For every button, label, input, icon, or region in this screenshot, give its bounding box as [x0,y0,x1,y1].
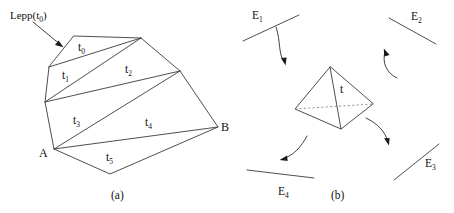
triangle-label-t3: t3 [73,115,80,127]
e2-arrow-head [384,49,390,57]
polygon-outline [45,36,218,174]
edge-label-e4-name: E [278,185,285,197]
lepp-label-suffix: ) [43,9,47,21]
triangle-label-t5: t5 [106,152,113,164]
edge-label-e3-name: E [425,157,432,169]
tetra-edge-apex-bottom [330,67,341,129]
lepp-label-prefix: Lepp(t [10,9,39,21]
triangle-label-t1-sub: 1 [65,75,69,84]
triangle-label-t4: t4 [145,117,152,129]
triangle-label-t0: t0 [78,42,85,54]
edge-label-e1: E1 [252,10,263,22]
tetra-outline [295,67,373,129]
e3-arrow-head [384,138,390,146]
figure-svg [0,0,454,213]
triangle-label-t0-sub: 0 [81,47,85,56]
figure-root: Lepp(t0) t0 t1 t2 t3 t4 t5 A B t E1 E2 E… [0,0,454,213]
edge-label-e3-sub: 3 [432,163,436,172]
lepp-label: Lepp(t0) [10,10,47,21]
edge-sketch-e2 [384,18,436,78]
edge-label-e4: E4 [278,186,289,198]
edge-label-e2: E2 [411,11,422,23]
vertex-label-a: A [39,147,48,159]
caption-b: (b) [331,190,344,202]
triangle-label-t5-sub: 5 [109,157,113,166]
triangle-label-t1: t1 [62,70,69,82]
panel-a-polygon [45,36,218,174]
e4-arrow-head [280,156,288,161]
edge-label-e4-sub: 4 [285,191,289,200]
tetra-hidden-edge [295,104,373,109]
e1-arrow-shaft [276,27,284,62]
lepp-label-sub: 0 [39,15,43,24]
vertex-label-b: B [221,121,229,133]
edge-sketch-e4 [247,136,314,178]
lepp-arrow-shaft [33,22,61,45]
edge-label-e3: E3 [425,158,436,170]
caption-a: (a) [111,190,124,202]
triangle-label-t3-sub: 3 [76,120,80,129]
tetra-label: t [340,84,343,96]
e1-arrow-head [281,57,287,65]
edge-label-e1-sub: 1 [259,15,263,24]
lepp-arrow [33,22,64,47]
triangle-label-t2-sub: 2 [128,69,132,78]
e4-arrow-shaft [283,136,307,159]
edge-sketch-e3 [366,118,439,180]
edge-label-e2-name: E [411,10,418,22]
panel-b-tetrahedron [295,67,373,129]
edge-t3-t4 [54,71,180,149]
edge-sketch-e1 [243,15,299,66]
e4-segment [247,170,314,178]
edge-label-e1-name: E [252,9,259,21]
triangle-label-t4-sub: 4 [148,122,152,131]
edge-label-e2-sub: 2 [418,16,422,25]
triangle-label-t2: t2 [125,64,132,76]
